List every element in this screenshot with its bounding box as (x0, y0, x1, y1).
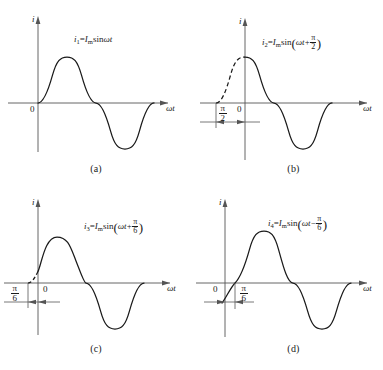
figure-grid: i ωt 0 i1=Imsinωt (a) i ωt 0 (0, 0, 383, 370)
y-axis-label: i (239, 16, 242, 26)
equation-b-phase-fraction: π2 (310, 34, 316, 51)
equation-c-phase-fraction: π6 (132, 218, 138, 235)
origin-label: 0 (30, 104, 35, 114)
panel-d: i ωt 0 π 6 i4=Imsin(ωt−π6) (d) (192, 185, 383, 370)
equation-d-phase-fraction: π6 (316, 215, 322, 232)
phase-arrow-right (38, 300, 46, 304)
equation-c-paren-close: ) (139, 222, 143, 233)
x-axis-label: ωt (363, 103, 372, 113)
y-axis-arrow (36, 16, 41, 24)
phase-marker-b-denominator: 2 (219, 113, 227, 123)
equation-b-sign: + (305, 37, 310, 47)
y-axis-label: i (32, 14, 35, 24)
sine-curve-dashed (216, 57, 245, 103)
equation-d-argument: ωt (302, 218, 311, 228)
panel-a-plot (0, 0, 192, 185)
phase-arrow-left (28, 300, 36, 304)
equation-b-func: sin (281, 37, 292, 47)
equation-d-phase-den: 6 (316, 223, 322, 232)
y-axis-label: i (32, 197, 35, 207)
origin-label: 0 (213, 284, 218, 294)
equation-b: i2=Imsin(ωt+π2) (262, 34, 321, 51)
sine-curve-dashed (28, 271, 38, 283)
x-axis-label: ωt (167, 283, 176, 293)
equation-d-phase-num: π (316, 215, 322, 223)
x-axis-label: ωt (363, 283, 372, 293)
panel-c: i ωt 0 π 6 i3=Imsin(ωt+π6) (c) (0, 185, 192, 370)
equation-d: i4=Imsin(ωt−π6) (268, 215, 327, 232)
caption-a: (a) (0, 163, 192, 174)
caption-c: (c) (0, 343, 192, 354)
equation-b-phase-num: π (310, 34, 316, 42)
x-axis-label: ωt (166, 103, 175, 113)
equation-d-paren-close: ) (323, 219, 327, 230)
phase-marker-d-denominator: 6 (240, 293, 248, 303)
y-axis-arrow (243, 18, 248, 26)
origin-label: 0 (237, 104, 242, 114)
y-axis-label: i (219, 197, 222, 207)
panel-b: i ωt 0 π 2 i2=Imsin(ωt+π2) (b) (192, 0, 383, 185)
equation-c-argument: ωt (118, 221, 127, 231)
equation-b-phase-den: 2 (310, 42, 316, 51)
equation-c-phase-num: π (132, 218, 138, 226)
equation-a-argument: ωt (103, 34, 112, 44)
equation-d-func: sin (287, 218, 298, 228)
equation-a-func: sin (93, 34, 104, 44)
equation-c-phase-den: 6 (132, 226, 138, 235)
panel-b-plot (192, 0, 383, 185)
panel-a: i ωt 0 i1=Imsinωt (a) (0, 0, 192, 185)
phase-marker-c: π 6 (11, 284, 19, 304)
caption-d: (d) (198, 343, 383, 354)
caption-b: (b) (198, 163, 383, 174)
equation-c: i3=Imsin(ωt+π6) (84, 218, 143, 235)
origin-label: 0 (43, 284, 48, 294)
phase-arrow-right (237, 120, 245, 124)
y-axis-arrow (36, 199, 41, 207)
phase-marker-d-numerator: π (240, 284, 248, 293)
phase-marker-c-numerator: π (11, 284, 19, 293)
equation-b-argument: ωt (296, 37, 305, 47)
equation-c-func: sin (103, 221, 114, 231)
phase-marker-c-denominator: 6 (11, 293, 19, 303)
phase-marker-b-numerator: π (219, 104, 227, 113)
sine-curve-solid (222, 231, 351, 329)
phase-marker-b: π 2 (219, 104, 227, 124)
phase-marker-d: π 6 (240, 284, 248, 304)
equation-d-sign: − (311, 218, 316, 228)
y-axis-arrow (223, 199, 228, 207)
equation-a: i1=Imsinωt (74, 35, 112, 45)
equation-c-sign: + (127, 221, 132, 231)
equation-b-paren-close: ) (317, 38, 321, 49)
